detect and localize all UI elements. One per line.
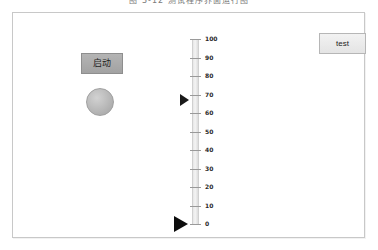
gauge-tick-label: 10	[205, 203, 213, 209]
gauge-value-pointer-icon[interactable]	[180, 94, 189, 106]
gauge-tick	[190, 206, 201, 207]
start-button[interactable]: 启动	[81, 53, 123, 74]
application-panel: 启动 1009080706050403020100 test	[12, 12, 365, 238]
gauge-tick-label: 30	[205, 166, 213, 172]
start-button-label: 启动	[93, 59, 111, 68]
gauge-tick	[190, 58, 201, 59]
figure-caption-text: 图 3-12 测试程序界面运行图	[0, 0, 378, 5]
vertical-gauge[interactable]: 1009080706050403020100	[183, 29, 243, 229]
gauge-tick-label: 100	[205, 36, 218, 42]
gauge-tick	[190, 169, 201, 170]
gauge-tick	[190, 95, 201, 96]
gauge-tick	[190, 187, 201, 188]
gauge-tick-label: 20	[205, 184, 213, 190]
gauge-tick-label: 80	[205, 73, 213, 79]
gauge-tick-label: 60	[205, 110, 213, 116]
gauge-tick-label: 90	[205, 55, 213, 61]
gauge-tick-label: 50	[205, 129, 213, 135]
gauge-tick-label: 0	[205, 221, 209, 227]
test-button[interactable]: test	[319, 33, 366, 54]
gauge-minimum-pointer-icon[interactable]	[174, 216, 188, 232]
gauge-tick-label: 70	[205, 92, 213, 98]
status-lamp-indicator	[86, 88, 114, 116]
figure-caption: 图 3-12 测试程序界面运行图	[0, 0, 378, 10]
gauge-tick	[190, 76, 201, 77]
gauge-tick	[190, 113, 201, 114]
gauge-tick	[190, 150, 201, 151]
gauge-tick-label: 40	[205, 147, 213, 153]
test-button-label: test	[336, 40, 349, 48]
gauge-tick	[190, 132, 201, 133]
gauge-tick	[190, 224, 201, 225]
gauge-tick	[190, 39, 201, 40]
